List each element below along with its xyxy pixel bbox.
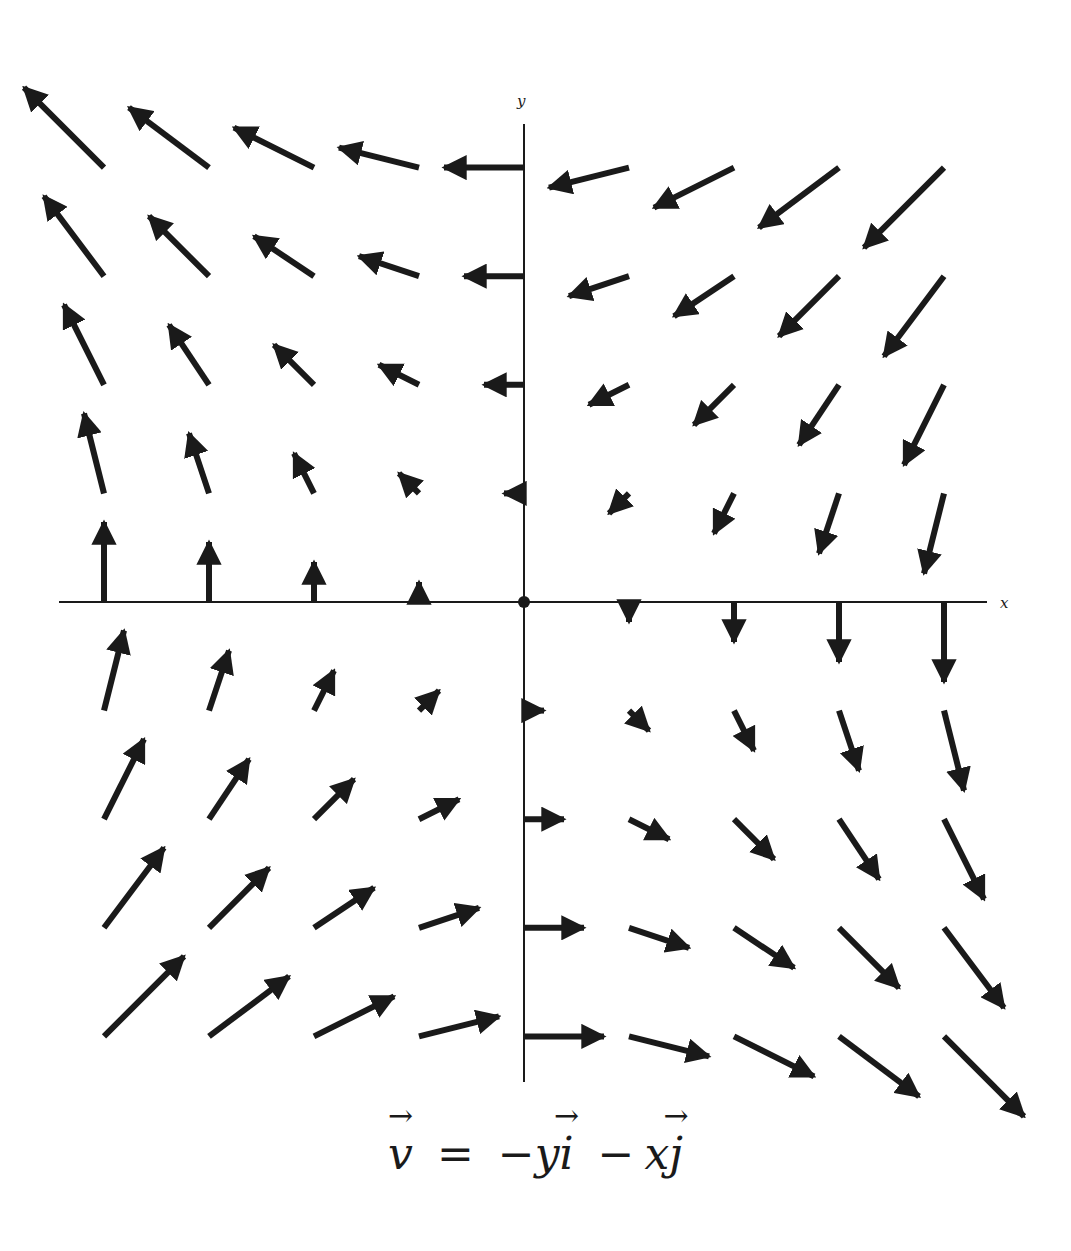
unit-j: j [669, 1128, 683, 1179]
vector-arrow [294, 453, 314, 493]
term2-coef: x [644, 1128, 669, 1179]
vector-arrow [904, 385, 944, 465]
vector-arrow [839, 819, 879, 879]
vector-arrow [189, 433, 209, 493]
vector-arrow [924, 493, 944, 573]
vector-arrow [104, 848, 164, 928]
term1-sign: − [498, 1128, 535, 1179]
vector-arrow [314, 996, 394, 1036]
vector-arrow [359, 256, 419, 276]
vector-arrow [104, 739, 144, 819]
vector-arrow [799, 385, 839, 445]
vector-arrow [944, 928, 1004, 1008]
vector-arrow [209, 976, 289, 1036]
vector-arrow [714, 493, 734, 533]
vector-arrow [589, 385, 629, 405]
vector-arrow [944, 1036, 1024, 1116]
vector-arrow [734, 928, 794, 968]
vector-arrow [149, 216, 209, 276]
term1-coef: y [535, 1128, 560, 1179]
vector-arrow [839, 928, 899, 988]
vector-arrow [209, 759, 249, 819]
vector-arrow [944, 819, 984, 899]
vector-arrow [884, 276, 944, 356]
vector-arrow [339, 148, 419, 168]
vector-arrow [169, 325, 209, 385]
vector-arrow [674, 276, 734, 316]
vector-arrow [734, 711, 754, 751]
x-axis-label: x [1000, 594, 1009, 612]
vector-arrow [419, 691, 439, 711]
vector-arrow [274, 345, 314, 385]
vector-arrow [839, 1036, 919, 1096]
vector-arrow [569, 276, 629, 296]
vector-arrow [694, 385, 734, 425]
vector-arrow [629, 928, 689, 948]
vector-arrow [314, 888, 374, 928]
vector-arrow [734, 819, 774, 859]
vector-field-plot: x y [0, 0, 1071, 1251]
origin-dot [518, 596, 530, 608]
equals-sign: = [437, 1128, 474, 1179]
vector-arrow [839, 711, 859, 771]
vector-arrow [314, 779, 354, 819]
vector-arrow [104, 956, 184, 1036]
field-equation-caption: v = −yi −xj [0, 1128, 1071, 1179]
vector-arrow [84, 413, 104, 493]
y-axis-label: y [516, 92, 526, 110]
vector-arrow [129, 108, 209, 168]
vector-arrow [209, 868, 269, 928]
vector-arrow [734, 1036, 814, 1076]
vector-arrow [64, 305, 104, 385]
vector-arrow [399, 473, 419, 493]
vector-v: v [388, 1128, 413, 1179]
vector-arrow [819, 493, 839, 553]
vector-arrow [609, 493, 629, 513]
vector-arrow [654, 168, 734, 208]
vector-arrow [254, 236, 314, 276]
vector-arrow [629, 819, 669, 839]
vector-arrow [209, 651, 229, 711]
vector-arrow [44, 196, 104, 276]
vector-arrow [944, 711, 964, 791]
vector-arrow [629, 1036, 709, 1056]
vector-arrow [419, 908, 479, 928]
vector-arrow [234, 128, 314, 168]
vector-arrow [419, 1016, 499, 1036]
vector-arrow [759, 168, 839, 228]
vector-arrow [779, 276, 839, 336]
vector-arrow [379, 365, 419, 385]
axes: x y [59, 92, 1009, 1082]
vector-arrow [549, 168, 629, 188]
vector-arrow [314, 671, 334, 711]
vector-arrow [629, 711, 649, 731]
unit-i: i [560, 1128, 574, 1179]
vector-arrow [24, 88, 104, 168]
vector-arrow [419, 799, 459, 819]
vector-arrow [104, 631, 124, 711]
vector-arrow [864, 168, 944, 248]
term2-sign: − [598, 1128, 635, 1179]
